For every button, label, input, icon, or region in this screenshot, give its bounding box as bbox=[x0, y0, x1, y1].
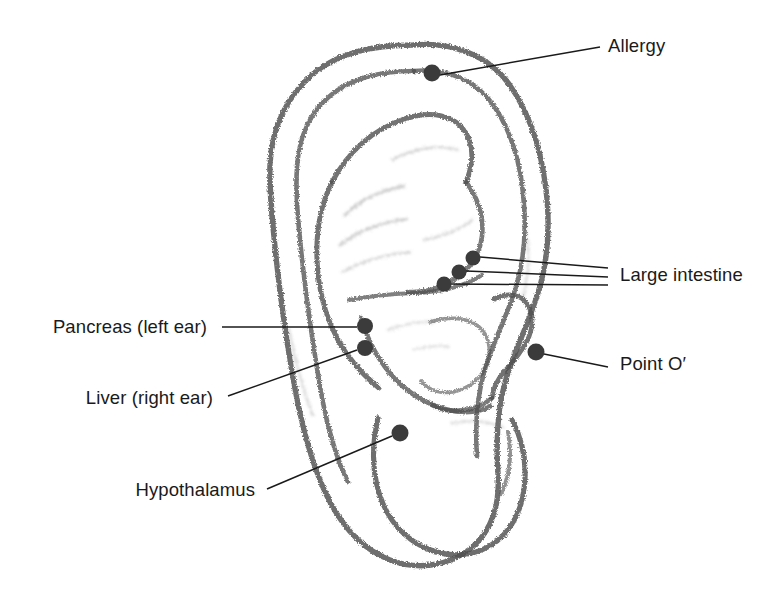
point-marker-liver[interactable] bbox=[357, 340, 373, 356]
concha-inner-wall bbox=[421, 318, 489, 392]
label-hypothalamus: Hypothalamus bbox=[136, 481, 255, 500]
point-marker-large-intestine-1[interactable] bbox=[466, 251, 481, 266]
antihelix-inferior-crus bbox=[408, 182, 482, 292]
ear-illustration bbox=[0, 0, 775, 600]
label-point-o-prime: Point O′ bbox=[620, 355, 686, 374]
leader-line-large-intestine-3 bbox=[451, 284, 608, 285]
point-marker-large-intestine-3[interactable] bbox=[437, 277, 452, 292]
point-marker-hypothalamus[interactable] bbox=[392, 425, 409, 442]
leader-line-point-o-prime bbox=[544, 354, 608, 367]
lobe-crease bbox=[501, 432, 510, 494]
point-marker-pancreas[interactable] bbox=[357, 318, 373, 334]
point-marker-point-o-prime[interactable] bbox=[528, 344, 545, 361]
label-liver-right-ear: Liver (right ear) bbox=[86, 389, 213, 408]
tragus bbox=[492, 295, 532, 398]
ear-drawing bbox=[270, 44, 548, 565]
label-pancreas-left-ear: Pancreas (left ear) bbox=[53, 318, 207, 337]
point-marker-large-intestine-2[interactable] bbox=[452, 265, 467, 280]
helix-inner-contour bbox=[296, 71, 524, 482]
helix-outer-contour bbox=[270, 44, 548, 565]
label-allergy: Allergy bbox=[608, 37, 665, 56]
leader-line-large-intestine-2 bbox=[466, 271, 608, 277]
pencil-shading bbox=[289, 147, 528, 427]
label-large-intestine: Large intestine bbox=[620, 266, 743, 285]
ear-acupuncture-figure: Allergy Large intestine Point O′ Pancrea… bbox=[0, 0, 775, 600]
cavum-concha-edge bbox=[361, 318, 491, 412]
point-marker-allergy[interactable] bbox=[424, 65, 441, 82]
